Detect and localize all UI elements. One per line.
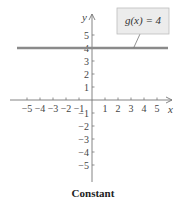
x-tick-label: 4 <box>142 103 147 114</box>
x-axis-label: x <box>167 103 173 115</box>
x-tick-label: −2 <box>61 103 72 114</box>
axes <box>10 14 172 182</box>
y-tick-label: 2 <box>84 69 89 80</box>
x-tick-label: 5 <box>155 103 160 114</box>
y-tick-label: −3 <box>78 134 89 145</box>
x-tick-label: −5 <box>22 103 33 114</box>
graph-caption: Constant <box>0 187 186 199</box>
y-tick-label: 1 <box>84 82 89 93</box>
x-tick-label: −4 <box>35 103 46 114</box>
callout-leader-line <box>134 34 140 48</box>
y-tick-label: −2 <box>78 121 89 132</box>
function-label-callout: g(x) = 4 <box>117 8 169 48</box>
y-tick-label: 3 <box>84 56 89 67</box>
x-tick-label: 2 <box>116 103 121 114</box>
x-tick-label: 3 <box>129 103 134 114</box>
y-tick-label: −1 <box>78 108 89 119</box>
y-tick-label: −4 <box>78 147 89 158</box>
callout-label: g(x) = 4 <box>125 14 162 27</box>
x-tick-label: −3 <box>48 103 59 114</box>
constant-function-graph: −5−4−3−2−11234554321−1−2−3−4−5 g(x) = 4 … <box>0 0 186 212</box>
x-tick-label: 1 <box>103 103 108 114</box>
y-tick-label: −5 <box>78 160 89 171</box>
y-tick-label: 5 <box>84 30 89 41</box>
y-axis-label: y <box>81 11 87 23</box>
